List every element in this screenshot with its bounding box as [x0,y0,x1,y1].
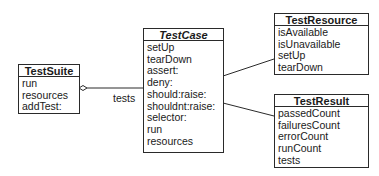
association-testcase-testresult [223,103,274,116]
member: passedCount [278,108,368,120]
class-name-testcase: TestCase [144,29,223,41]
class-name-testsuite: TestSuite [19,65,79,77]
class-name-testresult: TestResult [275,95,368,107]
class-name-testresource: TestResource [275,14,368,26]
aggregation-testsuite-testcase [79,86,143,91]
member: addTest: [22,101,79,113]
association-testcase-testresource [223,59,274,76]
member: isAvailable [278,27,368,39]
uml-diagram-canvas: tests TestSuite run resources addTest: T… [0,0,379,176]
member: setUp [147,42,223,54]
class-box-testresource: TestResource isAvailable isUnavailable s… [274,13,369,75]
aggregation-diamond-icon [79,86,87,91]
member: should:raise: [147,89,223,101]
member: run [147,124,223,136]
member: run [22,78,79,90]
class-box-testsuite: TestSuite run resources addTest: [18,64,80,114]
association-label-tests: tests [113,93,135,104]
class-box-testcase: TestCase setUp tearDown assert: deny: sh… [143,28,224,153]
member-list-testsuite: run resources addTest: [19,77,79,113]
member-list-testcase: setUp tearDown assert: deny: should:rais… [144,41,223,147]
class-box-testresult: TestResult passedCount failuresCount err… [274,94,369,168]
member: tests [278,155,368,167]
member: tearDown [278,62,368,74]
member: resources [147,136,223,148]
member-list-testresult: passedCount failuresCount errorCount run… [275,107,368,167]
member-list-testresource: isAvailable isUnavailable setUp tearDown [275,26,368,74]
